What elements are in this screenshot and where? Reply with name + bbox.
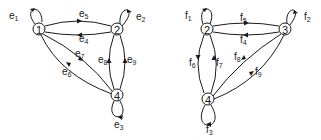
label-f2: f2 xyxy=(304,11,311,23)
svg-text:2: 2 xyxy=(204,24,210,36)
svg-text:1: 1 xyxy=(36,24,42,36)
label-e3: e3 xyxy=(114,119,124,131)
label-e9: e9 xyxy=(127,54,137,66)
arrow-icon xyxy=(77,19,82,24)
edge-f3 xyxy=(201,105,215,125)
arrow-icon xyxy=(196,55,201,60)
graph-diagram: 1 2 4 e1 e2 e3 e4 e5 e6 e7 e8 e9 xyxy=(0,0,321,140)
node-1: 1 xyxy=(33,23,45,36)
label-f1: f1 xyxy=(185,10,192,22)
svg-text:4: 4 xyxy=(114,90,120,102)
node-2: 2 xyxy=(111,23,123,36)
edge-f1 xyxy=(202,9,212,24)
node-4: 4 xyxy=(111,89,123,102)
edge-f8 xyxy=(213,34,281,96)
edge-e3 xyxy=(112,101,123,117)
label-f7: f7 xyxy=(216,57,223,69)
edge-e1 xyxy=(31,9,42,24)
node-4: 4 xyxy=(202,93,214,106)
label-f5: f5 xyxy=(240,12,247,24)
node-3: 3 xyxy=(279,23,291,36)
label-e2: e2 xyxy=(136,11,146,23)
edge-f6 xyxy=(198,35,204,93)
label-e5: e5 xyxy=(79,8,89,20)
svg-text:3: 3 xyxy=(282,24,288,36)
node-2: 2 xyxy=(201,23,213,36)
svg-text:4: 4 xyxy=(205,94,211,106)
label-e6: e6 xyxy=(62,66,72,78)
arrow-icon xyxy=(127,9,132,13)
left-graph: 1 2 4 e1 e2 e3 e4 e5 e6 e7 e8 e9 xyxy=(9,8,146,131)
label-e8: e8 xyxy=(98,54,108,66)
label-f8: f8 xyxy=(234,51,241,63)
svg-text:2: 2 xyxy=(114,24,120,36)
arrow-icon xyxy=(241,55,246,60)
arrow-icon xyxy=(243,33,248,38)
label-f6: f6 xyxy=(189,57,196,69)
right-graph: 2 3 4 f1 f2 f3 f4 f5 f6 f7 f8 f9 xyxy=(185,8,311,136)
label-e1: e1 xyxy=(9,10,19,22)
label-e7: e7 xyxy=(75,48,85,60)
edge-f9 xyxy=(214,35,284,99)
